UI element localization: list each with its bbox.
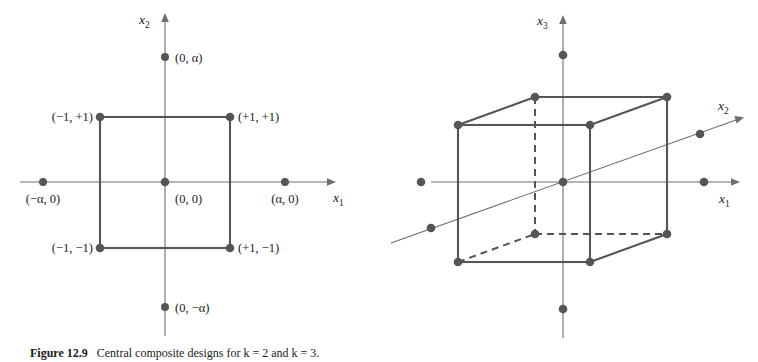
- label-bottom-star: (0, −α): [175, 301, 209, 315]
- x3-axis-label-3d: x3: [536, 13, 548, 31]
- x1-axis-label-3d-base: x: [718, 191, 725, 206]
- figure-caption-label: Figure 12.9: [30, 346, 88, 360]
- x1-axis-label-sub: 1: [339, 198, 344, 208]
- design-point-corner-tr: [226, 113, 235, 122]
- design-point-right-star: [281, 178, 289, 186]
- cube-vertex-front-bottom-right: [586, 258, 595, 267]
- label-corner-br: (+1, −1): [238, 241, 279, 255]
- figure-caption: Figure 12.9Central composite designs for…: [30, 346, 730, 361]
- x2-axis-label-base: x: [138, 12, 145, 27]
- x2-axis-label-3d: x2: [717, 98, 729, 116]
- label-left-star: (−α, 0): [26, 192, 60, 206]
- x2-axis-2d: [161, 13, 169, 336]
- central-composite-design-k3-panel: x1 x2 x3: [379, 0, 758, 345]
- star-point-x3-negative: [559, 305, 568, 314]
- x1-axis-3d: [431, 178, 740, 186]
- x3-axis-label-3d-base: x: [536, 13, 543, 28]
- design-point-corner-tl: [96, 113, 105, 122]
- label-center: (0, 0): [175, 192, 202, 206]
- design-point-corner-br: [226, 244, 235, 253]
- x2-axis-label-sub: 2: [145, 20, 150, 30]
- label-corner-tl: (−1, +1): [52, 110, 93, 124]
- design-point-corner-bl: [96, 244, 105, 253]
- star-point-x2-negative: [427, 224, 436, 233]
- cube-vertex-back-bottom-right: [663, 230, 672, 239]
- star-point-x2-positive: [696, 130, 705, 139]
- star-point-x3-positive: [559, 51, 568, 60]
- label-corner-bl: (−1, −1): [52, 241, 93, 255]
- label-corner-tr: (+1, +1): [238, 110, 279, 124]
- x1-axis-label-3d: x1: [718, 191, 730, 209]
- cube-vertex-back-top-left: [531, 93, 540, 102]
- cube-vertex-front-bottom-left: [454, 258, 463, 267]
- central-composite-design-k2-panel: (0, α) (0, −α) (−α, 0) (α, 0) (0, 0) (−1…: [0, 0, 379, 345]
- cube-vertex-front-top-right: [586, 121, 595, 130]
- cube-vertex-back-bottom-left: [531, 230, 540, 239]
- design-point-top-star: [161, 53, 169, 61]
- x2-axis-3d: [391, 116, 744, 243]
- design-point-center: [161, 178, 170, 187]
- center-point-3d: [559, 178, 568, 187]
- label-top-star: (0, α): [175, 51, 202, 65]
- star-point-x1-negative: [417, 178, 426, 187]
- x1-axis-label-base: x: [332, 190, 339, 205]
- x1-axis-label: x1: [332, 190, 344, 208]
- x1-axis-label-3d-sub: 1: [725, 199, 730, 209]
- x3-axis-label-3d-sub: 3: [543, 21, 548, 31]
- x2-axis-label-3d-sub: 2: [724, 106, 729, 116]
- cube-vertex-front-top-left: [454, 121, 463, 130]
- design-point-bottom-star: [161, 303, 169, 311]
- label-right-star: (α, 0): [271, 192, 298, 206]
- x2-axis-label: x2: [138, 12, 150, 30]
- cube-vertex-back-top-right: [663, 93, 672, 102]
- figure-container: (0, α) (0, −α) (−α, 0) (α, 0) (0, 0) (−1…: [0, 0, 758, 362]
- design-point-left-star: [39, 178, 47, 186]
- figure-caption-text: Central composite designs for k = 2 and …: [97, 346, 320, 360]
- x2-axis-label-3d-base: x: [717, 98, 724, 113]
- star-point-x1-positive: [700, 178, 709, 187]
- x3-axis-3d: [559, 15, 567, 338]
